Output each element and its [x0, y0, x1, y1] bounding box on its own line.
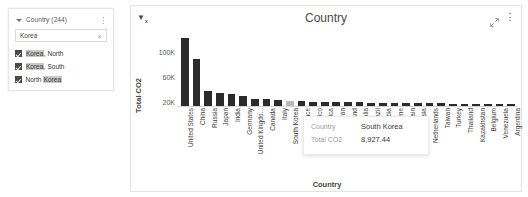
search-match-highlight: Korea [43, 76, 61, 83]
list-item-label-post: , North [44, 50, 64, 57]
slicer-header: Country (244) [15, 14, 107, 25]
y-axis-ticks: 100K 60K 20K [145, 6, 175, 116]
search-match-highlight: Korea [26, 50, 44, 57]
list-item[interactable]: Korea, South [15, 60, 107, 73]
chart-tooltip: Country South Korea Total CO2 8,927.44 [303, 116, 429, 155]
bar[interactable] [251, 99, 259, 106]
bar[interactable] [204, 91, 212, 106]
plot-area: Total CO2 — 100K 60K 20K United StatesCh… [131, 6, 523, 193]
bar[interactable] [193, 59, 201, 106]
bar[interactable] [228, 94, 236, 106]
list-item[interactable]: Korea, North [15, 47, 107, 60]
clear-icon[interactable]: × [96, 32, 103, 39]
x-axis-title: Country [131, 180, 523, 189]
slicer-title: Country (244) [26, 16, 99, 23]
x-tick-label[interactable]: Thailand [467, 108, 474, 133]
x-tick-label[interactable]: Germany [246, 108, 253, 135]
country-slicer-card[interactable]: Country (244) Korea × Korea, North Korea… [8, 8, 114, 91]
list-item[interactable]: North Korea [15, 73, 107, 86]
slicer-item-list: Korea, North Korea, South North Korea [15, 47, 107, 86]
checkbox-korea-south[interactable] [15, 63, 22, 70]
x-tick-label[interactable]: China [199, 108, 206, 125]
x-tick-label[interactable]: Turkey [455, 108, 462, 128]
bar[interactable] [263, 99, 271, 106]
tooltip-key: Total CO2 [311, 136, 361, 143]
tooltip-value: South Korea [361, 122, 403, 131]
list-item-label: Korea, South [26, 63, 65, 70]
x-tick-label[interactable]: Venezuela [502, 108, 509, 138]
tooltip-row: Country South Korea [311, 122, 421, 135]
x-tick-label[interactable]: South Korea [292, 108, 299, 144]
country-bar-chart-card[interactable]: ▼x Country Total CO2 — 100K 60K 20K Unit… [130, 5, 522, 192]
bar[interactable] [239, 96, 247, 106]
x-tick-label[interactable]: Italy [281, 108, 288, 120]
y-axis-unit-icon: — [136, 94, 142, 100]
bar-series [179, 33, 517, 106]
x-tick-label[interactable]: Russia [211, 108, 218, 128]
bar[interactable] [181, 38, 189, 106]
y-tick-label: 100K [159, 49, 175, 56]
checkbox-korea-north[interactable] [15, 50, 22, 57]
more-options-icon[interactable] [99, 15, 107, 25]
tooltip-key: Country [311, 123, 361, 130]
list-item-label: North Korea [26, 76, 62, 83]
x-tick-label[interactable]: Belgium [490, 108, 497, 131]
x-tick-label[interactable]: Netherlands [432, 108, 439, 143]
tooltip-value: 8,927.44 [361, 135, 390, 144]
bar[interactable] [216, 93, 224, 106]
x-tick-label[interactable]: United States [187, 108, 194, 147]
y-tick-label: 60K [163, 74, 175, 81]
x-tick-label[interactable]: Kazakhstan [479, 108, 486, 142]
list-item-label: Korea, North [26, 50, 64, 57]
tooltip-row: Total CO2 8,927.44 [311, 135, 421, 148]
x-tick-label[interactable]: United Kingdo... [257, 108, 264, 154]
slicer-search-box[interactable]: Korea × [15, 29, 107, 42]
x-tick-label[interactable]: Canada [269, 108, 276, 131]
checkbox-north-korea[interactable] [15, 76, 22, 83]
x-tick-label[interactable]: India [234, 108, 241, 122]
search-match-highlight: Korea [26, 63, 44, 70]
x-tick-label[interactable]: Argentina [514, 108, 521, 136]
x-tick-label[interactable]: Taiwan [444, 108, 451, 128]
search-input[interactable]: Korea [20, 32, 37, 39]
x-tick-label[interactable]: Japan [222, 108, 229, 126]
y-tick-label: 20K [163, 99, 175, 106]
list-item-label-post: , South [44, 63, 65, 70]
list-item-label-pre: North [26, 76, 44, 83]
caret-down-icon[interactable] [15, 16, 23, 24]
